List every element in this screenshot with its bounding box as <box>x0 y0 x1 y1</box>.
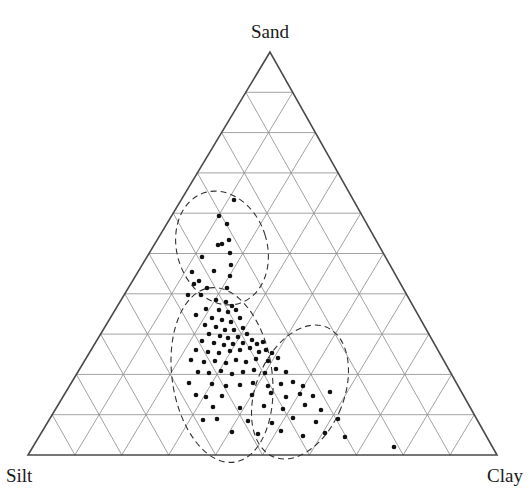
data-point <box>229 263 234 268</box>
data-point <box>269 391 274 396</box>
data-point <box>186 293 191 298</box>
data-point <box>298 392 303 397</box>
data-point <box>194 393 199 398</box>
data-point <box>262 404 267 409</box>
cluster-ellipse-upper-cluster <box>161 179 282 317</box>
data-point <box>279 382 284 387</box>
data-point <box>244 360 249 365</box>
data-point <box>225 222 230 227</box>
data-point <box>231 342 236 347</box>
data-point <box>214 325 219 330</box>
data-point <box>284 395 289 400</box>
data-point <box>211 405 216 410</box>
data-point <box>246 419 251 424</box>
data-point <box>220 242 225 247</box>
data-point <box>279 429 284 434</box>
data-point <box>245 332 250 337</box>
data-point <box>251 381 256 386</box>
data-points <box>186 198 397 450</box>
data-point <box>228 251 233 256</box>
data-point <box>238 348 243 353</box>
data-point <box>234 308 239 313</box>
data-point <box>276 356 281 361</box>
data-point <box>220 394 225 399</box>
data-point <box>284 370 289 375</box>
data-point <box>224 384 229 389</box>
data-point <box>210 316 215 321</box>
data-point <box>234 358 239 363</box>
data-point <box>219 369 224 374</box>
data-point <box>218 334 223 339</box>
data-point <box>205 286 210 291</box>
data-point <box>217 214 222 219</box>
data-point <box>301 384 306 389</box>
data-point <box>200 339 205 344</box>
data-point <box>187 381 192 386</box>
grid-line-left-diagonal <box>246 92 450 455</box>
data-point <box>303 403 308 408</box>
grid-line-right-diagonal <box>75 92 293 455</box>
data-point <box>216 243 221 248</box>
data-point <box>291 416 296 421</box>
data-point <box>252 368 257 373</box>
data-point <box>336 417 341 422</box>
data-point <box>230 430 235 435</box>
data-point <box>254 357 259 362</box>
data-point <box>189 358 194 363</box>
data-point <box>270 351 275 356</box>
grid-line-right-diagonal <box>263 254 384 456</box>
data-point <box>190 270 195 275</box>
data-point <box>197 279 202 284</box>
ternary-plot-canvas: Sand Silt Clay <box>0 0 530 503</box>
data-point <box>222 343 227 348</box>
data-point <box>228 349 233 354</box>
data-point <box>207 332 212 337</box>
data-point <box>257 350 262 355</box>
data-point <box>319 408 324 413</box>
data-point <box>204 395 209 400</box>
data-point <box>266 359 271 364</box>
data-point <box>238 316 243 321</box>
data-point <box>241 370 246 375</box>
cluster-outlines <box>160 179 367 473</box>
data-point <box>250 338 255 343</box>
data-point <box>238 406 243 411</box>
grid-line-left-diagonal <box>197 173 356 455</box>
data-point <box>226 336 231 341</box>
data-point <box>196 370 201 375</box>
data-point <box>232 198 237 203</box>
data-point <box>392 445 397 450</box>
data-point <box>232 328 237 333</box>
data-point <box>248 346 253 351</box>
grid-line-left-diagonal <box>149 254 263 456</box>
data-point <box>270 421 275 426</box>
data-point <box>217 351 222 356</box>
grid-lines <box>52 92 474 455</box>
data-point <box>226 310 231 315</box>
data-point <box>203 323 208 328</box>
data-point <box>264 348 269 353</box>
data-point <box>301 434 306 439</box>
data-point <box>238 383 243 388</box>
data-point <box>207 371 212 376</box>
data-point <box>194 313 199 318</box>
grid-line-left-diagonal <box>52 415 75 455</box>
data-point <box>328 390 333 395</box>
data-point <box>192 282 197 287</box>
data-point <box>274 367 279 372</box>
data-point <box>241 326 246 331</box>
data-point <box>220 318 225 323</box>
data-point <box>311 394 316 399</box>
data-point <box>212 341 217 346</box>
data-point <box>210 382 215 387</box>
data-point <box>241 341 246 346</box>
data-point <box>343 435 348 440</box>
axis-label-silt: Silt <box>6 465 33 486</box>
data-point <box>194 348 199 353</box>
data-point <box>200 255 205 260</box>
data-point <box>323 431 328 436</box>
data-point <box>227 238 232 243</box>
data-point <box>236 335 241 340</box>
axis-label-sand: Sand <box>251 21 290 42</box>
grid-line-right-diagonal <box>450 415 474 455</box>
